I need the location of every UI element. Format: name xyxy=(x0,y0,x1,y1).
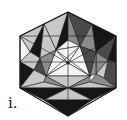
geometric-figure xyxy=(0,0,127,120)
center-point xyxy=(66,61,69,64)
figure-label: i. xyxy=(8,96,18,111)
hexagon-tiling-diagram xyxy=(0,0,127,120)
